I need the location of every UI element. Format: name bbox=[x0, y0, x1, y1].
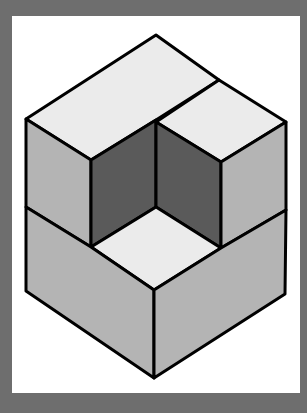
isometric-block-figure bbox=[0, 0, 307, 413]
figure-frame bbox=[0, 0, 307, 413]
